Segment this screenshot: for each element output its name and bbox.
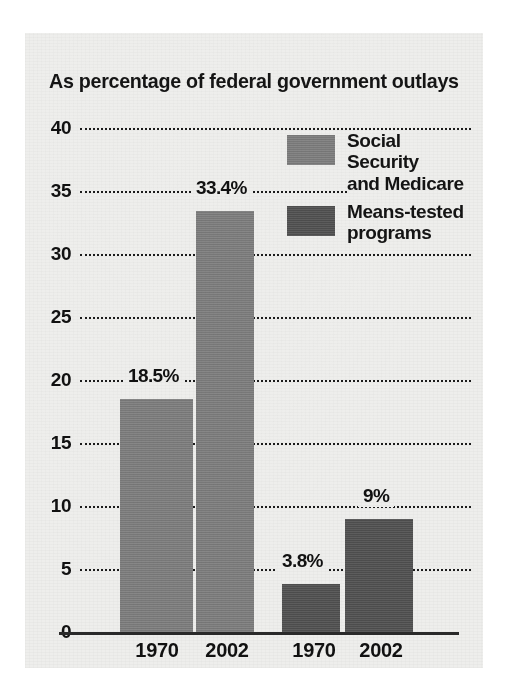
legend-label-line2: and Medicare — [347, 173, 477, 194]
bar-value-label: 18.5% — [123, 365, 184, 387]
y-tick-label: 20 — [25, 369, 71, 391]
legend-label-line1: Means-tested — [347, 201, 477, 222]
x-axis-line — [59, 632, 459, 635]
x-tick-label-ss-2002: 2002 — [185, 639, 269, 662]
x-tick-label-means-2002: 2002 — [339, 639, 423, 662]
bar-value-label: 3.8% — [277, 550, 328, 572]
legend-item-means-tested[interactable]: Means-tested programs — [287, 204, 477, 260]
chart-page: As percentage of federal government outl… — [0, 0, 508, 695]
bar-ss-1970[interactable] — [120, 399, 193, 632]
y-tick-label: 5 — [25, 558, 71, 580]
legend-swatch-icon — [287, 135, 335, 165]
chart-panel: As percentage of federal government outl… — [25, 33, 483, 668]
legend-swatch-icon — [287, 206, 335, 236]
legend-label-social-security: Social Security and Medicare — [347, 130, 477, 194]
bar-ss-2002[interactable] — [196, 211, 254, 632]
y-tick-label: 40 — [25, 117, 71, 139]
y-tick-label: 35 — [25, 180, 71, 202]
legend-item-social-security[interactable]: Social Security and Medicare — [287, 133, 477, 189]
chart-legend: Social Security and Medicare Means-teste… — [287, 133, 477, 275]
legend-label-means-tested: Means-tested programs — [347, 201, 477, 244]
legend-label-line1: Social Security — [347, 130, 477, 173]
y-tick-label: 30 — [25, 243, 71, 265]
bar-value-label: 33.4% — [191, 177, 252, 199]
y-tick-label: 25 — [25, 306, 71, 328]
bar-value-label: 9% — [358, 485, 394, 507]
bar-means-1970[interactable] — [282, 584, 340, 632]
bar-means-2002[interactable] — [345, 519, 413, 632]
y-tick-label: 15 — [25, 432, 71, 454]
legend-label-line2: programs — [347, 222, 477, 243]
y-tick-label: 10 — [25, 495, 71, 517]
gridline — [80, 317, 471, 319]
plot-area: 40 35 30 25 20 15 — [25, 33, 483, 668]
